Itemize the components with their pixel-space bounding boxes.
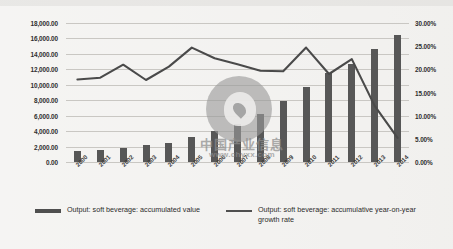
- left-axis-tick: 0.00: [46, 159, 58, 166]
- right-axis-tick: 25.00%: [415, 43, 436, 50]
- left-axis-tick: 6,000.00: [34, 112, 58, 119]
- chart-plot-area: [66, 23, 409, 162]
- chart-legend: Output: soft beverage: accumulated value…: [0, 205, 453, 245]
- left-axis-tick: 14,000.00: [30, 50, 58, 57]
- left-axis-tick: 8,000.00: [34, 97, 58, 104]
- legend-item-growth-rate: Output: soft beverage: accumulative year…: [226, 205, 418, 225]
- x-axis-tick-labels: 2000200120022003200420052006200720082009…: [66, 163, 409, 193]
- right-axis-tick: 30.00%: [415, 20, 436, 27]
- left-axis-tick: 18,000.00: [30, 20, 58, 27]
- left-axis-tick-labels: 18,000.0016,000.0014,000.0012,000.0010,0…: [0, 23, 62, 162]
- left-axis-tick: 4,000.00: [34, 128, 58, 135]
- left-axis-tick: 16,000.00: [30, 35, 58, 42]
- left-axis-tick: 10,000.00: [30, 81, 58, 88]
- growth-rate-polyline: [77, 48, 397, 138]
- right-axis-tick: 20.00%: [415, 66, 436, 73]
- line-series-layer: [66, 23, 409, 162]
- legend-line-swatch-icon: [226, 210, 252, 212]
- right-axis-tick: 0.00%: [415, 159, 433, 166]
- right-axis-tick: 10.00%: [415, 112, 436, 119]
- legend-item-accumulated-value: Output: soft beverage: accumulated value: [35, 205, 200, 215]
- left-axis-tick: 12,000.00: [30, 66, 58, 73]
- legend-label: Output: soft beverage: accumulative year…: [258, 205, 418, 225]
- legend-label: Output: soft beverage: accumulated value: [67, 205, 200, 215]
- right-axis-tick: 15.00%: [415, 89, 436, 96]
- right-axis-tick-labels: 30.00%25.00%20.00%15.00%10.00%5.00%0.00%: [412, 23, 453, 162]
- legend-bar-swatch-icon: [35, 209, 61, 213]
- right-axis-tick: 5.00%: [415, 135, 433, 142]
- left-axis-tick: 2,000.00: [34, 143, 58, 150]
